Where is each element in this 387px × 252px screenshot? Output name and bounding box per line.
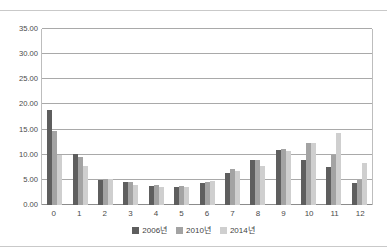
bar-group (67, 29, 92, 205)
bar (184, 187, 189, 205)
legend-item[interactable]: 2014년 (220, 226, 255, 235)
bar-group (321, 29, 346, 205)
x-axis: 0123456789101112 (41, 206, 373, 222)
bar (83, 166, 88, 205)
bar (57, 155, 62, 205)
bottom-divider (0, 246, 387, 247)
x-axis-tick-label: 6 (194, 206, 220, 222)
bar (336, 133, 341, 205)
bar-group (245, 29, 270, 205)
legend-item[interactable]: 2010년 (176, 226, 211, 235)
x-axis-tick-label: 5 (169, 206, 195, 222)
x-axis-tick-label: 1 (67, 206, 93, 222)
y-axis-tick-label: 35.00 (4, 25, 38, 33)
legend-swatch-icon (132, 227, 139, 234)
y-axis-tick-label: 5.00 (4, 176, 38, 184)
bar-group (271, 29, 296, 205)
bar-group (296, 29, 321, 205)
bar (159, 187, 164, 205)
x-axis-tick-label: 10 (296, 206, 322, 222)
bar-group (347, 29, 372, 205)
bar-group (169, 29, 194, 205)
legend-item[interactable]: 2006년 (132, 226, 167, 235)
plot-area (41, 29, 373, 205)
y-axis-tick-label: 15.00 (4, 126, 38, 134)
legend-label: 2010년 (186, 226, 211, 235)
bar-group (144, 29, 169, 205)
y-axis-tick-label: 20.00 (4, 100, 38, 108)
x-axis-tick-label: 3 (118, 206, 144, 222)
bar-groups (42, 29, 372, 205)
legend-label: 2014년 (230, 226, 255, 235)
y-axis-tick-label: 0.00 (4, 201, 38, 209)
bar (235, 171, 240, 205)
bar-group (220, 29, 245, 205)
y-axis-tick-label: 25.00 (4, 75, 38, 83)
x-axis-tick-label: 9 (271, 206, 297, 222)
chart-figure: 0.005.0010.0015.0020.0025.0030.0035.00 0… (0, 0, 387, 252)
top-divider (0, 10, 387, 11)
bar-group (93, 29, 118, 205)
bar-group (118, 29, 143, 205)
x-axis-tick-label: 7 (220, 206, 246, 222)
bar (210, 181, 215, 205)
legend-label: 2006년 (142, 226, 167, 235)
bar (286, 151, 291, 205)
legend-swatch-icon (220, 227, 227, 234)
bar (362, 163, 367, 205)
bar (260, 166, 265, 205)
x-axis-tick-label: 12 (347, 206, 373, 222)
bar-group (194, 29, 219, 205)
y-axis-tick-label: 30.00 (4, 50, 38, 58)
bar (133, 185, 138, 205)
y-axis-tick-label: 10.00 (4, 151, 38, 159)
x-axis-tick-label: 11 (322, 206, 348, 222)
x-axis-tick-label: 8 (245, 206, 271, 222)
bar (108, 179, 113, 205)
chart-legend: 2006년2010년2014년 (0, 226, 387, 235)
bar (311, 143, 316, 205)
x-axis-tick-label: 2 (92, 206, 118, 222)
x-axis-tick-label: 4 (143, 206, 169, 222)
bar-group (42, 29, 67, 205)
legend-swatch-icon (176, 227, 183, 234)
x-axis-tick-label: 0 (41, 206, 67, 222)
